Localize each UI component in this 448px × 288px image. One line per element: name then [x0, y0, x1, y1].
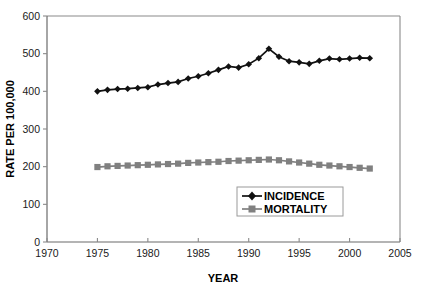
data-point	[205, 159, 211, 165]
data-point	[94, 164, 100, 170]
x-tick-label: 1980	[136, 247, 160, 259]
data-point	[225, 63, 232, 70]
data-point	[104, 163, 110, 169]
data-point	[236, 158, 242, 164]
y-tick-label: 200	[22, 160, 40, 172]
data-point	[155, 81, 162, 88]
data-point	[276, 157, 282, 163]
data-point	[346, 164, 352, 170]
cropped-caption-fragment	[0, 0, 448, 9]
x-axis-tick-labels: 19701975198019851990199520002005	[35, 247, 412, 259]
y-tick-label: 600	[22, 10, 40, 22]
data-point	[175, 161, 181, 167]
data-point	[185, 75, 192, 82]
x-tick-label: 1975	[86, 247, 110, 259]
data-point	[185, 160, 191, 166]
data-point	[145, 162, 151, 168]
data-point	[256, 157, 262, 163]
data-point	[124, 85, 131, 92]
series-incidence	[94, 45, 373, 94]
legend-label-incidence: INCIDENCE	[264, 190, 325, 202]
data-point	[326, 55, 333, 62]
data-point	[175, 79, 182, 86]
data-point	[306, 61, 313, 68]
data-point	[225, 158, 231, 164]
y-tick-label: 100	[22, 198, 40, 210]
y-axis-title: RATE PER 100,000	[4, 80, 16, 178]
data-point	[286, 58, 293, 65]
data-point	[145, 84, 152, 91]
x-tick-label: 1985	[187, 247, 211, 259]
data-point	[326, 162, 332, 168]
data-point	[357, 165, 363, 171]
data-point	[346, 55, 353, 62]
data-point	[165, 161, 171, 167]
chart-figure: 0100200300400500600 19701975198019851990…	[0, 0, 448, 288]
x-tick-label: 1995	[287, 247, 311, 259]
data-point	[115, 163, 121, 169]
data-point	[286, 158, 292, 164]
x-tick-label: 2000	[338, 247, 362, 259]
data-series-group	[94, 45, 373, 171]
data-point	[266, 156, 272, 162]
x-axis-title: YEAR	[208, 272, 239, 284]
y-tick-label: 0	[34, 236, 40, 248]
data-point	[366, 55, 373, 62]
x-tick-label: 1990	[237, 247, 261, 259]
data-point	[155, 161, 161, 167]
square-marker-icon	[249, 206, 256, 213]
data-point	[205, 70, 212, 77]
y-axis-tick-labels: 0100200300400500600	[22, 10, 40, 248]
data-point	[316, 58, 323, 65]
data-point	[336, 56, 343, 63]
legend-label-mortality: MORTALITY	[264, 203, 328, 215]
data-point	[296, 159, 302, 165]
data-point	[336, 163, 342, 169]
y-tick-label: 300	[22, 123, 40, 135]
data-point	[215, 67, 222, 74]
data-point	[367, 165, 373, 171]
data-point	[165, 80, 172, 87]
data-point	[114, 86, 121, 93]
x-tick-label: 2005	[388, 247, 412, 259]
y-tick-label: 500	[22, 47, 40, 59]
data-point	[134, 85, 141, 92]
plot-frame	[47, 16, 400, 242]
data-point	[306, 161, 312, 167]
data-point	[296, 59, 303, 66]
data-point	[135, 162, 141, 168]
data-point	[104, 87, 111, 94]
data-point	[195, 73, 202, 80]
data-point	[356, 55, 363, 62]
y-tick-label: 400	[22, 85, 40, 97]
data-point	[316, 162, 322, 168]
chart-svg: 0100200300400500600 19701975198019851990…	[0, 0, 448, 288]
chart-legend: INCIDENCE MORTALITY	[237, 187, 343, 216]
data-point	[125, 162, 131, 168]
data-point	[94, 88, 101, 95]
series-mortality	[94, 156, 373, 171]
data-point	[235, 64, 242, 71]
data-point	[195, 159, 201, 165]
data-point	[246, 157, 252, 163]
x-tick-label: 1970	[35, 247, 59, 259]
series-line	[97, 49, 369, 92]
data-point	[215, 159, 221, 165]
